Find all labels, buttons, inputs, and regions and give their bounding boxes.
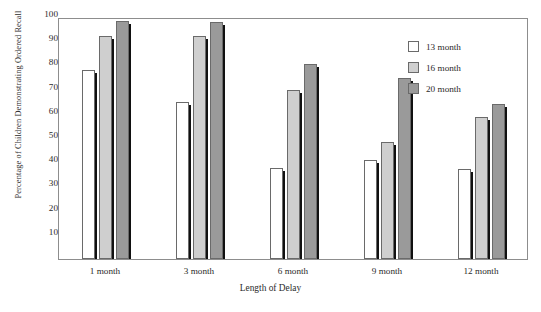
bar-13-month xyxy=(82,70,95,259)
y-tick-label: 100 xyxy=(36,14,58,15)
bar xyxy=(99,36,114,259)
legend-swatch-icon xyxy=(408,62,419,73)
bar xyxy=(287,90,302,259)
y-tick-label: 40 xyxy=(36,159,58,160)
bar xyxy=(475,117,490,259)
y-axis-title: Percentage of Children Demonstrating Ord… xyxy=(14,0,23,230)
bar xyxy=(398,78,413,260)
y-tick-label: 60 xyxy=(36,111,58,112)
bar-20-month xyxy=(492,104,505,259)
legend-label: 16 month xyxy=(426,63,461,73)
legend-swatch-icon xyxy=(408,83,419,94)
x-tick-label: 9 month xyxy=(342,266,432,276)
y-tick-label: 20 xyxy=(36,208,58,209)
legend-item: 20 month xyxy=(408,78,461,99)
legend: 13 month16 month20 month xyxy=(408,36,461,99)
bar-13-month xyxy=(270,168,283,259)
bar xyxy=(116,21,131,259)
bar xyxy=(82,70,97,259)
bar xyxy=(458,169,473,259)
bar-13-month xyxy=(458,169,471,259)
x-tick-label: 1 month xyxy=(60,266,150,276)
bar xyxy=(210,22,225,259)
x-tick-label: 3 month xyxy=(154,266,244,276)
bar xyxy=(492,104,507,259)
bar-16-month xyxy=(99,36,112,259)
bar xyxy=(381,142,396,259)
bar-20-month xyxy=(398,78,411,260)
y-tick-label: 10 xyxy=(36,232,58,233)
bar-20-month xyxy=(210,22,223,259)
figure-bar-chart: Percentage of Children Demonstrating Ord… xyxy=(0,0,541,312)
legend-item: 16 month xyxy=(408,57,461,78)
y-tick-label: 80 xyxy=(36,62,58,63)
legend-swatch-icon xyxy=(408,41,419,52)
x-tick-label: 12 month xyxy=(436,266,526,276)
bar-16-month xyxy=(381,142,394,259)
y-tick-label: 70 xyxy=(36,87,58,88)
x-axis-title: Length of Delay xyxy=(0,283,541,293)
bar-16-month xyxy=(193,36,206,259)
bar-20-month xyxy=(304,64,317,259)
legend-label: 20 month xyxy=(426,84,461,94)
bar xyxy=(176,102,191,259)
x-tick-label: 6 month xyxy=(248,266,338,276)
bar-16-month xyxy=(287,90,300,259)
bar-13-month xyxy=(364,160,377,259)
bar-20-month xyxy=(116,21,129,259)
y-tick-label: 30 xyxy=(36,183,58,184)
y-tick-label: 50 xyxy=(36,135,58,136)
bar xyxy=(304,64,319,259)
bar-13-month xyxy=(176,102,189,259)
bar xyxy=(364,160,379,259)
legend-label: 13 month xyxy=(426,42,461,52)
bar xyxy=(270,168,285,259)
bar-16-month xyxy=(475,117,488,259)
legend-item: 13 month xyxy=(408,36,461,57)
bar xyxy=(193,36,208,259)
y-tick-label: 90 xyxy=(36,38,58,39)
